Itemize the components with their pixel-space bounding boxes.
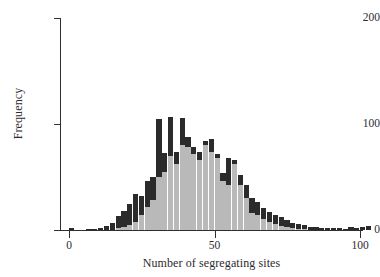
histogram-bar (273, 215, 278, 230)
bar-segment-light (174, 164, 179, 230)
x-tick-mark (360, 231, 361, 238)
bar-segment-dark (238, 175, 243, 186)
bar-segment-dark (226, 158, 231, 186)
bar-segment-dark (244, 185, 249, 198)
histogram-bar (145, 181, 150, 230)
bar-segment-dark (127, 204, 132, 225)
y-tick-label: 100 (336, 118, 380, 130)
y-tick-mark (54, 230, 61, 231)
histogram-bar (168, 117, 173, 230)
histogram-bar (215, 154, 220, 230)
bar-segment-dark (197, 152, 202, 160)
bar-segment-dark (261, 208, 266, 220)
x-tick-label: 100 (340, 240, 380, 252)
bar-segment-dark (296, 224, 301, 229)
bar-segment-dark (174, 152, 179, 165)
bar-segment-dark (290, 223, 295, 228)
bar-segment-light (156, 177, 161, 230)
histogram-bar (185, 137, 190, 230)
bar-segment-light (197, 160, 202, 230)
bar-segment-dark (209, 139, 214, 152)
histogram-bar (174, 152, 179, 230)
bar-segment-light (255, 215, 260, 230)
x-tick-label: 50 (195, 240, 235, 252)
bar-segment-light (150, 200, 155, 230)
bar-segment-dark (185, 137, 190, 148)
x-axis-line (60, 230, 363, 231)
histogram-bar (220, 173, 225, 230)
histogram-bar (110, 223, 115, 230)
bar-segment-dark (162, 153, 167, 172)
bar-segment-light (139, 215, 144, 230)
histogram-bar (209, 139, 214, 230)
histogram-bar (121, 211, 126, 230)
bar-segment-light (215, 158, 220, 230)
histogram-bar (238, 175, 243, 230)
bar-segment-light (238, 185, 243, 230)
histogram-bar (150, 177, 155, 230)
bar-segment-dark (220, 173, 225, 181)
bar-segment-dark (191, 147, 196, 153)
x-tick-mark (69, 231, 70, 238)
bar-segment-light (267, 222, 272, 230)
bar-segment-light (232, 164, 237, 230)
histogram-bar (191, 147, 196, 230)
bar-segment-dark (279, 217, 284, 225)
bar-segment-dark (133, 194, 138, 222)
bar-segment-dark (267, 212, 272, 222)
bar-segment-dark (203, 141, 208, 145)
x-axis-title: Number of segregating sites (60, 256, 363, 271)
bar-segment-light (244, 198, 249, 230)
bar-segment-light (191, 154, 196, 230)
y-tick-mark (54, 124, 61, 125)
y-axis-title: Frequency (11, 69, 26, 159)
histogram-bar (162, 153, 167, 230)
histogram-bar (180, 118, 185, 230)
histogram-bar (261, 208, 266, 230)
bar-segment-light (249, 213, 254, 230)
bar-segment-light (203, 145, 208, 230)
bar-segment-dark (168, 117, 173, 156)
bar-segment-light (209, 152, 214, 230)
histogram-figure: 0100200 050100 Number of segregating sit… (0, 0, 380, 277)
bar-segment-light (220, 181, 225, 230)
bar-segment-light (168, 156, 173, 230)
y-tick-mark (54, 18, 61, 19)
bar-segment-dark (121, 211, 126, 227)
histogram-bar (226, 158, 231, 230)
histogram-bar (249, 198, 254, 230)
bar-segment-light (133, 222, 138, 230)
histogram-bar (116, 216, 121, 230)
bar-segment-dark (284, 220, 289, 226)
histogram-bar (133, 194, 138, 230)
bar-segment-dark (180, 118, 185, 146)
bars-layer (0, 0, 380, 230)
bar-segment-light (226, 185, 231, 230)
histogram-bar (244, 185, 249, 230)
histogram-bar (127, 204, 132, 231)
bar-segment-dark (156, 119, 161, 177)
histogram-bar (255, 202, 260, 230)
bar-segment-light (145, 207, 150, 230)
histogram-bar (284, 220, 289, 230)
bar-segment-dark (139, 196, 144, 215)
bar-segment-dark (110, 223, 115, 230)
bar-segment-light (261, 219, 266, 230)
y-tick-label: 200 (336, 12, 380, 24)
bar-segment-dark (273, 215, 278, 223)
bar-segment-dark (255, 202, 260, 215)
x-tick-label: 0 (49, 240, 89, 252)
histogram-bar (197, 152, 202, 230)
histogram-bar (279, 217, 284, 230)
bar-segment-dark (145, 181, 150, 206)
bar-segment-dark (302, 225, 307, 229)
bar-segment-light (180, 145, 185, 230)
y-tick-label: 0 (336, 224, 380, 236)
x-tick-mark (215, 231, 216, 238)
bar-segment-dark (150, 177, 155, 200)
histogram-bar (267, 212, 272, 230)
bar-segment-light (162, 172, 167, 230)
bar-segment-light (185, 147, 190, 230)
histogram-bar (156, 119, 161, 230)
bar-segment-dark (116, 216, 121, 228)
